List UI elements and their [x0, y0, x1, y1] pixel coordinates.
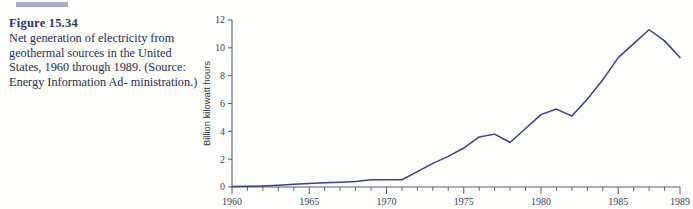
chart-axes — [232, 20, 680, 187]
x-tick-label: 1970 — [376, 196, 396, 207]
caption-line-1: Net generation of electricity from — [9, 31, 174, 45]
y-tick-label: 6 — [220, 98, 225, 109]
caption-line-2: geothermal sources in the United — [9, 46, 172, 60]
y-tick-label: 0 — [220, 181, 225, 192]
y-tick-label: 10 — [215, 42, 225, 53]
x-tick-label: 1960 — [222, 196, 242, 207]
x-tick-label: 1980 — [531, 196, 551, 207]
top-rule-decoration — [16, 2, 68, 7]
data-series-line — [232, 30, 680, 187]
figure-caption-block: Figure 15.34 Net generation of electrici… — [9, 16, 199, 89]
x-tick-label: 1985 — [608, 196, 628, 207]
figure-page: Figure 15.34 Net generation of electrici… — [0, 0, 693, 209]
chart-svg: 024681012 1960196519701975198019851989 B… — [200, 8, 693, 209]
figure-label: Figure 15.34 — [9, 16, 199, 30]
x-tick-label: 1975 — [454, 196, 474, 207]
x-axis-ticks: 1960196519701975198019851989 — [222, 187, 690, 207]
y-tick-label: 8 — [220, 70, 225, 81]
y-axis-ticks: 024681012 — [215, 14, 232, 192]
line-chart: 024681012 1960196519701975198019851989 B… — [200, 8, 693, 209]
x-tick-label: 1989 — [670, 196, 690, 207]
caption-line-3: States, 1960 through 1989. — [9, 60, 141, 74]
x-tick-label: 1965 — [299, 196, 319, 207]
caption-line-5: ministration.) — [131, 75, 198, 89]
y-tick-label: 4 — [220, 126, 225, 137]
figure-caption-text: Net generation of electricity from geoth… — [9, 31, 199, 89]
y-tick-label: 12 — [215, 14, 225, 25]
y-axis-title: Billion kilowatt hours — [201, 61, 212, 146]
y-tick-label: 2 — [220, 154, 225, 165]
